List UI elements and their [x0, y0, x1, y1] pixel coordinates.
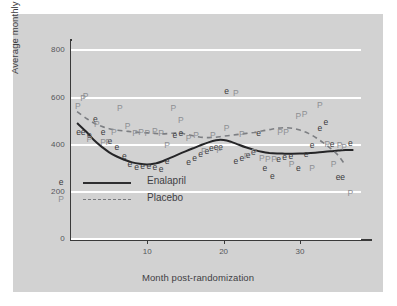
legend-marker-e: e — [55, 177, 67, 187]
data-point-P: P — [251, 148, 257, 157]
legend-item-enalapril: e Enalapril — [55, 174, 235, 191]
data-point-e: e — [324, 118, 329, 127]
y-axis-title: Average monthly cost ($US) — [9, 0, 20, 74]
data-point-e: e — [153, 163, 158, 172]
data-point-e: e — [192, 153, 197, 162]
data-point-P: P — [271, 155, 277, 164]
data-point-e: e — [256, 129, 261, 138]
data-point-e: e — [317, 124, 322, 133]
data-point-e: e — [282, 153, 287, 162]
data-point-e: e — [296, 164, 301, 173]
data-point-e: e — [340, 172, 345, 181]
data-point-P: P — [152, 127, 158, 136]
data-point-e: e — [114, 143, 119, 152]
data-point-e: e — [134, 163, 139, 172]
data-point-P: P — [164, 140, 170, 149]
data-point-e: e — [270, 172, 275, 181]
data-point-P: P — [309, 164, 315, 173]
legend-marker-p: P — [55, 194, 67, 204]
data-point-P: P — [178, 116, 184, 125]
data-point-P: P — [216, 146, 222, 155]
data-point-e: e — [81, 128, 86, 137]
data-point-P: P — [244, 152, 250, 161]
x-axis-title: Month post-randomization — [13, 272, 383, 283]
data-point-e: e — [165, 157, 170, 166]
x-tick-label-10: 10 — [135, 247, 159, 256]
data-point-P: P — [347, 189, 353, 198]
data-point-P: P — [138, 128, 144, 137]
data-point-P: P — [201, 146, 207, 155]
data-point-e: e — [159, 165, 164, 174]
data-point-e: e — [172, 131, 177, 140]
plot-area: eeeeeeeeeeeeeeeeeeeeeeeeeeeeeeeeeeeeeeee… — [71, 41, 361, 239]
data-point-P: P — [325, 139, 331, 148]
data-point-e: e — [140, 162, 145, 171]
data-point-e: e — [146, 162, 151, 171]
y-tick-label-0: 0 — [13, 234, 65, 243]
data-point-e: e — [122, 152, 127, 161]
data-point-P: P — [331, 159, 337, 168]
data-point-P: P — [259, 153, 265, 162]
data-point-P: P — [283, 128, 289, 137]
data-point-P: P — [117, 104, 123, 113]
data-point-e: e — [348, 139, 353, 148]
data-point-P: P — [158, 129, 164, 138]
data-point-P: P — [193, 131, 199, 140]
data-point-e: e — [179, 129, 184, 138]
legend-line-dashed — [83, 199, 131, 200]
data-point-e: e — [127, 159, 132, 168]
data-point-e: e — [186, 158, 191, 167]
x-tick-label-20: 20 — [212, 247, 236, 256]
data-point-P: P — [144, 129, 150, 138]
data-point-P: P — [341, 143, 347, 152]
data-point-P: P — [75, 102, 81, 111]
data-point-P: P — [94, 119, 100, 128]
data-point-P: P — [302, 110, 308, 119]
data-point-P: P — [132, 129, 138, 138]
data-point-P: P — [277, 128, 283, 137]
chart-legend: e Enalapril P Placebo — [55, 174, 235, 208]
data-point-e: e — [233, 157, 238, 166]
data-point-P: P — [186, 133, 192, 142]
data-point-P: P — [224, 124, 230, 133]
data-point-P: P — [106, 138, 112, 147]
data-point-e: e — [304, 150, 309, 159]
data-point-P: P — [233, 89, 239, 98]
data-point-P: P — [210, 131, 216, 140]
y-tick-label-800: 800 — [13, 45, 65, 54]
legend-label-enalapril: Enalapril — [147, 175, 186, 187]
data-point-P: P — [317, 100, 323, 109]
data-point-P: P — [289, 159, 295, 168]
data-point-e: e — [262, 164, 267, 173]
legend-line-solid — [83, 182, 131, 184]
data-point-P: P — [239, 130, 245, 139]
data-point-P: P — [170, 104, 176, 113]
data-point-P: P — [83, 92, 89, 101]
legend-item-placebo: P Placebo — [55, 191, 235, 208]
x-tick-label-30: 30 — [288, 247, 312, 256]
data-point-P: P — [265, 155, 271, 164]
data-point-P: P — [111, 128, 117, 137]
y-tick-label-600: 600 — [13, 93, 65, 102]
data-point-e: e — [224, 86, 229, 95]
data-point-P: P — [86, 135, 92, 144]
data-point-e: e — [310, 140, 315, 149]
legend-label-placebo: Placebo — [147, 192, 183, 204]
data-point-e: e — [101, 128, 106, 137]
data-point-P: P — [125, 122, 131, 131]
chart-figure: Average monthly cost ($US) Month post-ra… — [13, 14, 383, 292]
data-point-P: P — [296, 112, 302, 121]
y-tick-label-400: 400 — [13, 140, 65, 149]
